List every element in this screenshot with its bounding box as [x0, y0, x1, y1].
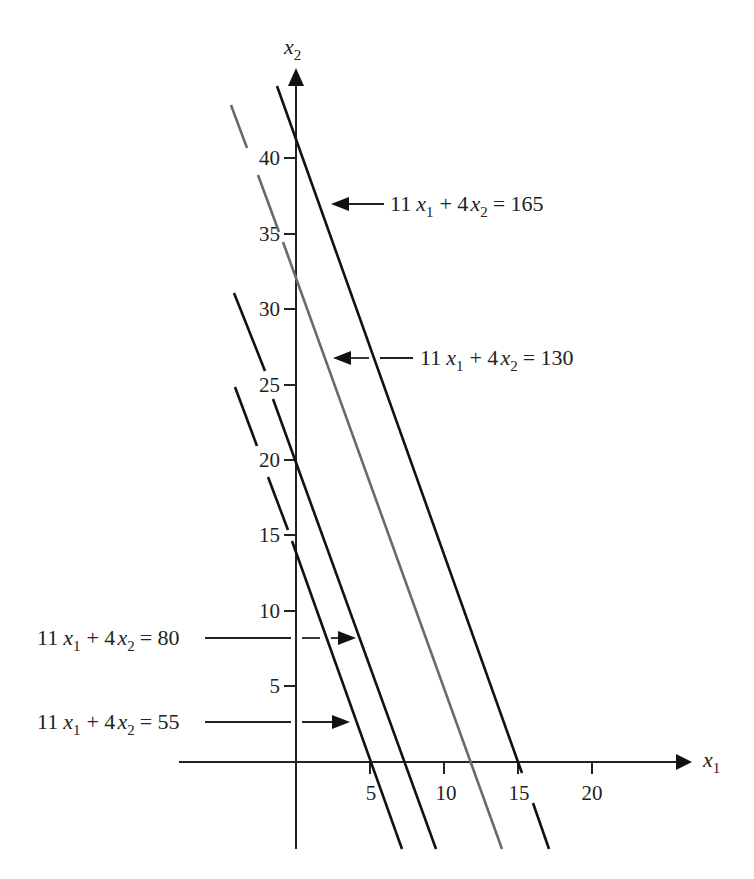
x-tick-label: 15	[509, 781, 530, 805]
arrow-right-icon	[338, 631, 356, 645]
y-tick-label: 25	[259, 373, 280, 397]
y-axis-label: x2	[283, 34, 301, 63]
y-tick-label: 40	[259, 146, 280, 170]
axes	[179, 84, 678, 849]
arrow-left-icon	[333, 351, 351, 365]
line-130	[231, 105, 502, 849]
y-tick-label: 20	[259, 448, 280, 472]
arrow-right-icon	[332, 715, 350, 729]
label-165: 11x1+ 4x2= 165	[390, 191, 544, 220]
arrow-80	[205, 631, 356, 645]
label-55: 11x1+ 4x2= 55	[37, 709, 180, 738]
y-tick-label: 5	[270, 674, 281, 698]
arrow-55	[205, 715, 350, 729]
label-130: 11x1+ 4x2= 130	[420, 345, 574, 374]
y-ticks	[284, 158, 296, 686]
chart: 5 10 15 20 25 30 35 40 5 10 15 20 x2 x1	[0, 0, 754, 879]
y-axis-arrowhead-icon	[288, 68, 304, 86]
x-axis-arrowhead-icon	[676, 754, 692, 770]
y-tick-label: 15	[259, 523, 280, 547]
x-ticks	[370, 762, 592, 774]
x-tick-label: 10	[436, 781, 457, 805]
x-tick-label: 20	[582, 781, 603, 805]
y-tick-label: 30	[259, 297, 280, 321]
y-tick-label: 10	[259, 599, 280, 623]
x-axis-label: x1	[702, 747, 720, 776]
label-80: 11x1+ 4x2= 80	[37, 625, 180, 654]
arrow-165	[331, 197, 384, 211]
arrow-left-icon	[331, 197, 349, 211]
x-tick-label: 5	[366, 781, 377, 805]
